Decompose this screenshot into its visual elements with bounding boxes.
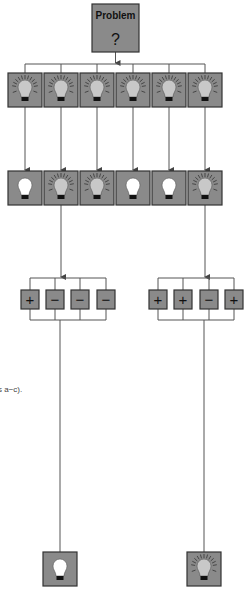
evaluated-idea-box-5 — [152, 171, 186, 205]
idea-box-6 — [188, 73, 222, 107]
final-idea-box-1 — [43, 552, 77, 586]
criteria-group-1-sign-2: − — [46, 290, 64, 309]
evaluated-idea-box-2 — [44, 171, 78, 205]
minus-sign: − — [102, 291, 111, 308]
question-mark-icon: ? — [111, 31, 120, 48]
criteria-group-2-sign-3: − — [200, 290, 218, 309]
evaluated-idea-box-4 — [116, 171, 150, 205]
minus-sign: − — [205, 291, 214, 308]
evaluated-idea-box-6 — [188, 171, 222, 205]
final-idea-box-2 — [187, 552, 221, 586]
criteria-group-2-sign-1: + — [149, 290, 167, 309]
criteria-group-1-sign-3: − — [71, 290, 89, 309]
minus-sign: − — [51, 291, 60, 308]
problem-box: Problem? — [92, 4, 139, 52]
plus-sign: + — [154, 291, 163, 308]
criteria-group-1-sign-4: − — [97, 290, 115, 309]
idea-box-2 — [44, 73, 78, 107]
idea-box-5 — [152, 73, 186, 107]
criteria-group-2-sign-4: + — [225, 290, 243, 309]
evaluated-idea-box-3 — [80, 171, 114, 205]
problem-title: Problem — [95, 10, 135, 21]
idea-evaluation-diagram: Problem?+−−−++−+ — [0, 0, 244, 590]
plus-sign: + — [179, 291, 188, 308]
plus-sign: + — [230, 291, 239, 308]
criteria-group-2-sign-2: + — [174, 290, 192, 309]
criteria-group-1-sign-1: + — [21, 290, 39, 309]
idea-box-4 — [116, 73, 150, 107]
evaluated-idea-box-1 — [8, 171, 42, 205]
plus-sign: + — [26, 291, 35, 308]
idea-box-3 — [80, 73, 114, 107]
minus-sign: − — [76, 291, 85, 308]
idea-box-1 — [8, 73, 42, 107]
